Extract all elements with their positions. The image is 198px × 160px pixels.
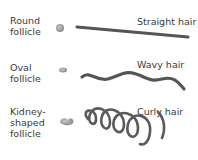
curly-hair-tail	[158, 112, 164, 138]
oval-follicle-shape	[59, 68, 67, 73]
curly-hair-shape	[86, 108, 150, 144]
wavy-hair-shape	[82, 73, 184, 89]
round-follicle-shape	[56, 24, 64, 32]
straight-hair-shape	[77, 27, 188, 37]
hair-illustrations	[0, 0, 198, 160]
kidney-follicle-shape	[60, 118, 73, 125]
